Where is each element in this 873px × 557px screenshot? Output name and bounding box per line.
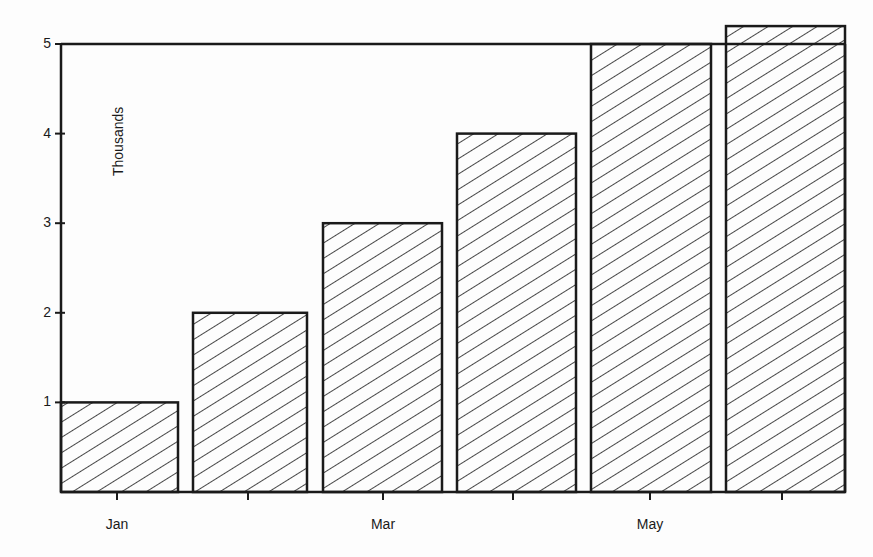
bar-apr <box>457 134 576 492</box>
y-tick-label: 2 <box>31 304 51 320</box>
y-tick-label: 1 <box>31 393 51 409</box>
bar-jun <box>726 26 845 492</box>
x-tick-label: May <box>637 516 663 532</box>
bar-may <box>591 44 711 492</box>
x-tick-label: Jan <box>106 516 129 532</box>
bar-feb <box>193 313 307 492</box>
y-axis-title: Thousands <box>110 107 126 176</box>
bar-mar <box>323 223 442 492</box>
x-tick-label: Mar <box>371 516 395 532</box>
y-tick-label: 3 <box>31 214 51 230</box>
bar-jan <box>61 402 178 492</box>
bar-chart <box>0 0 873 557</box>
y-tick-label: 4 <box>31 125 51 141</box>
y-tick-label: 5 <box>31 35 51 51</box>
bars-group <box>61 26 845 492</box>
